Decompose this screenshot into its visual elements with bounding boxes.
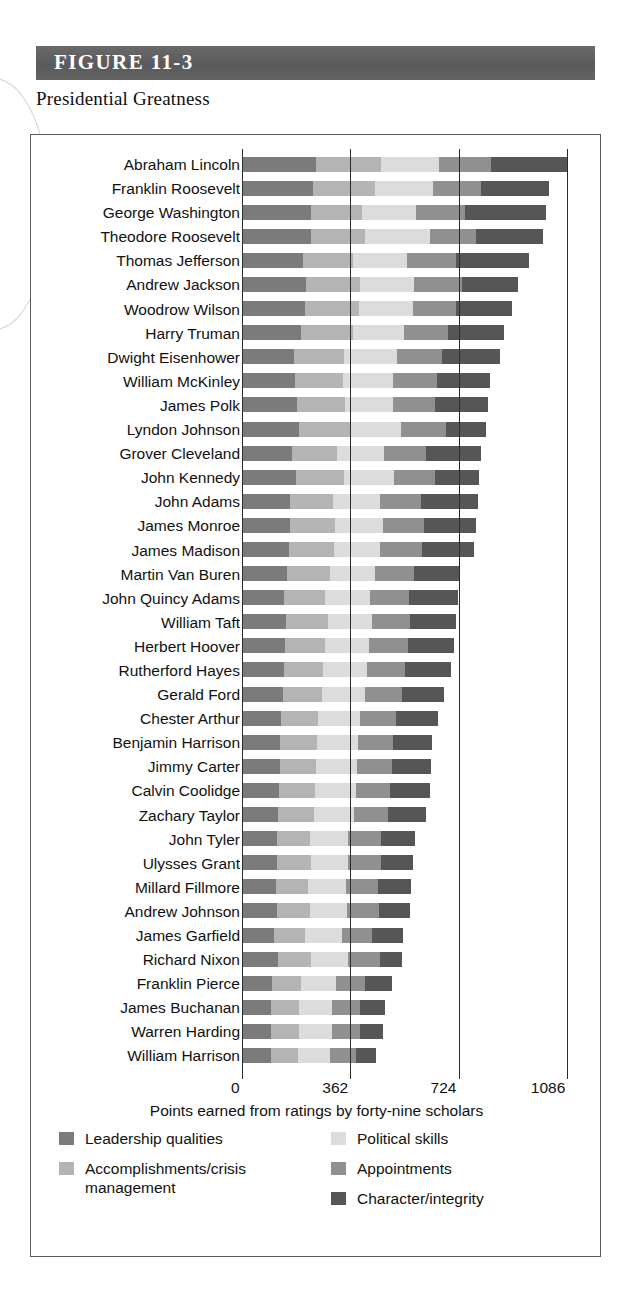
bar-row: James Monroe <box>31 514 602 538</box>
stacked-bar <box>242 229 543 244</box>
bar-segment-2 <box>292 446 337 461</box>
stacked-bar <box>242 711 438 726</box>
bar-segment-3 <box>301 976 336 991</box>
bar-segment-1 <box>242 253 303 268</box>
stacked-bar <box>242 277 518 292</box>
bar-segment-2 <box>283 687 321 702</box>
bar-segment-1 <box>242 1024 271 1039</box>
stacked-bar <box>242 205 547 220</box>
bar-segment-2 <box>311 229 365 244</box>
bar-row-label: Millard Fillmore <box>35 879 240 897</box>
stacked-bar <box>242 687 444 702</box>
bar-segment-3 <box>325 590 370 605</box>
bar-segment-1 <box>242 446 292 461</box>
bar-row-label: John Adams <box>35 493 240 511</box>
bar-segment-4 <box>332 1024 360 1039</box>
stacked-bar <box>242 879 411 894</box>
bar-segment-1 <box>242 903 277 918</box>
bar-segment-4 <box>393 397 435 412</box>
bar-segment-3 <box>310 831 348 846</box>
bar-segment-3 <box>381 157 439 172</box>
bar-row: Calvin Coolidge <box>31 779 602 803</box>
gridline-0 <box>242 149 243 1079</box>
legend-swatch-icon <box>331 1162 346 1175</box>
bar-row: Dwight Eisenhower <box>31 346 602 370</box>
bar-row: George Washington <box>31 201 602 225</box>
bar-segment-4 <box>413 301 456 316</box>
bar-segment-4 <box>354 807 388 822</box>
bar-row-label: Zachary Taylor <box>35 807 240 825</box>
bar-segment-3 <box>337 446 384 461</box>
bar-row-label: James Madison <box>35 542 240 560</box>
bar-row-label: Gerald Ford <box>35 686 240 704</box>
bar-segment-5 <box>388 807 426 822</box>
bar-segment-5 <box>422 542 474 557</box>
figure-header-band: FIGURE 11-3 <box>36 46 595 80</box>
bar-segment-3 <box>344 470 393 485</box>
bar-segment-5 <box>405 662 451 677</box>
bar-segment-3 <box>335 518 382 533</box>
bar-segment-2 <box>294 349 343 364</box>
bar-segment-4 <box>401 422 446 437</box>
bar-segment-5 <box>448 325 504 340</box>
bar-segment-2 <box>272 976 301 991</box>
bar-row: Rutherford Hayes <box>31 659 602 683</box>
bar-segment-5 <box>380 952 402 967</box>
bar-row-label: Jimmy Carter <box>35 758 240 776</box>
bar-row-label: Abraham Lincoln <box>35 156 240 174</box>
legend-label: Character/integrity <box>357 1189 484 1208</box>
bar-segment-5 <box>365 976 392 991</box>
gridline-1086 <box>567 149 568 1079</box>
bar-row: James Polk <box>31 394 602 418</box>
bar-segment-1 <box>242 687 283 702</box>
bar-row-label: Ulysses Grant <box>35 855 240 873</box>
bar-row: William Taft <box>31 611 602 635</box>
bar-segment-4 <box>348 831 380 846</box>
bar-row-label: Martin Van Buren <box>35 566 240 584</box>
bar-row: Thomas Jefferson <box>31 249 602 273</box>
gridline-362 <box>350 149 351 1079</box>
bar-segment-5 <box>372 928 403 943</box>
bar-row-label: George Washington <box>35 204 240 222</box>
bar-segment-3 <box>322 687 366 702</box>
bar-segment-4 <box>365 687 401 702</box>
bar-segment-1 <box>242 638 285 653</box>
bar-segment-5 <box>491 157 566 172</box>
bar-row-label: William Harrison <box>35 1047 240 1065</box>
bar-row: Woodrow Wilson <box>31 298 602 322</box>
bar-row: William Harrison <box>31 1044 602 1068</box>
bar-segment-5 <box>409 590 458 605</box>
bar-segment-3 <box>375 181 433 196</box>
bar-row-label: Benjamin Harrison <box>35 734 240 752</box>
bar-segment-4 <box>348 952 380 967</box>
bar-segment-2 <box>280 759 316 774</box>
stacked-bar <box>242 157 567 172</box>
bar-segment-1 <box>242 855 277 870</box>
bar-row: James Buchanan <box>31 996 602 1020</box>
bar-segment-4 <box>384 446 426 461</box>
bar-row-label: Franklin Roosevelt <box>35 180 240 198</box>
bar-segment-4 <box>407 253 456 268</box>
bar-segment-1 <box>242 494 290 509</box>
stacked-bar <box>242 1048 376 1063</box>
bar-segment-3 <box>325 638 370 653</box>
bar-segment-5 <box>392 759 431 774</box>
x-axis-tick-label: 0 <box>231 1079 240 1097</box>
bar-segment-5 <box>414 566 460 581</box>
stacked-bar <box>242 422 486 437</box>
bar-segment-4 <box>370 590 409 605</box>
stacked-bar <box>242 301 512 316</box>
bar-segment-2 <box>278 807 313 822</box>
bar-row: Herbert Hoover <box>31 635 602 659</box>
stacked-bar <box>242 903 410 918</box>
chart-legend: Leadership qualitiesPolitical skillsAcco… <box>31 1127 602 1235</box>
legend-item: Accomplishments/crisis management <box>59 1159 259 1197</box>
bar-segment-2 <box>290 494 333 509</box>
bar-segment-4 <box>332 1000 360 1015</box>
stacked-bar <box>242 1000 385 1015</box>
bar-segment-2 <box>277 903 310 918</box>
bar-segment-2 <box>280 735 316 750</box>
bar-segment-3 <box>353 325 404 340</box>
bar-segment-1 <box>242 807 278 822</box>
bar-segment-5 <box>408 638 454 653</box>
